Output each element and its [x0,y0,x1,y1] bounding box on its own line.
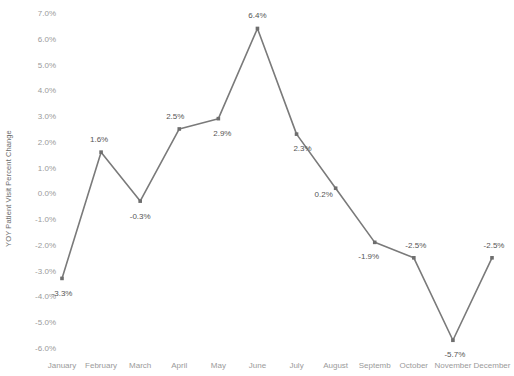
data-point-marker [99,150,103,154]
data-point-label: -5.7% [444,350,465,359]
data-point-label: 1.6% [90,135,108,144]
data-point-label: -3.3% [52,289,73,298]
data-point-label: 6.4% [248,11,266,20]
data-point-marker [334,186,338,190]
data-point-label: 2.5% [166,111,184,120]
data-point-label: -1.9% [358,252,379,261]
data-point-label: 2.9% [213,128,231,137]
data-point-label: 2.3% [293,144,311,153]
data-point-label: -0.3% [130,212,151,221]
data-point-label: -2.5% [405,240,426,249]
plot-area [0,0,514,376]
data-point-label: -2.5% [484,240,505,249]
data-point-marker [138,199,142,203]
line-chart: YOY Patient Visit Percent Change 7.0%6.0… [0,0,514,376]
series-line-yoy-patient-visit-percent-change [62,28,492,340]
data-point-marker [256,27,260,31]
data-point-marker [373,241,377,245]
data-point-marker [451,338,455,342]
data-point-marker [217,117,221,121]
data-point-marker [490,256,494,260]
data-point-marker [412,256,416,260]
data-point-marker [295,132,299,136]
data-point-marker [60,277,64,281]
data-point-label: 0.2% [315,190,333,199]
series-markers [60,27,494,342]
data-point-marker [177,127,181,131]
